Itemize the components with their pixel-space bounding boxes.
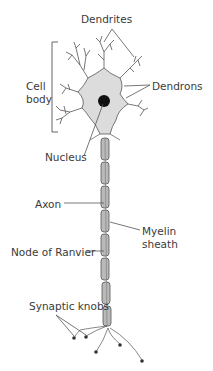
nucleus (98, 95, 110, 107)
neuron-diagram: Dendrites Cell body Dendrons Nucleus Axo… (0, 0, 213, 371)
neuron-illustration (0, 0, 213, 371)
cell-body-bracket (52, 42, 58, 132)
label-myelin-line1: Myelin (142, 225, 176, 237)
label-node-of-ranvier: Node of Ranvier (11, 246, 95, 258)
label-cell-body-line1: Cell (26, 80, 46, 92)
label-dendrites: Dendrites (81, 13, 132, 25)
label-dendrons: Dendrons (152, 80, 203, 92)
label-cell-body-line2: body (26, 93, 52, 105)
label-synaptic-knobs: Synaptic knobs (29, 300, 109, 312)
label-myelin-line2: sheath (142, 238, 178, 250)
label-axon: Axon (35, 198, 61, 210)
axon-terminals (74, 326, 142, 360)
synaptic-knobs (72, 335, 144, 363)
label-nucleus: Nucleus (45, 151, 87, 163)
